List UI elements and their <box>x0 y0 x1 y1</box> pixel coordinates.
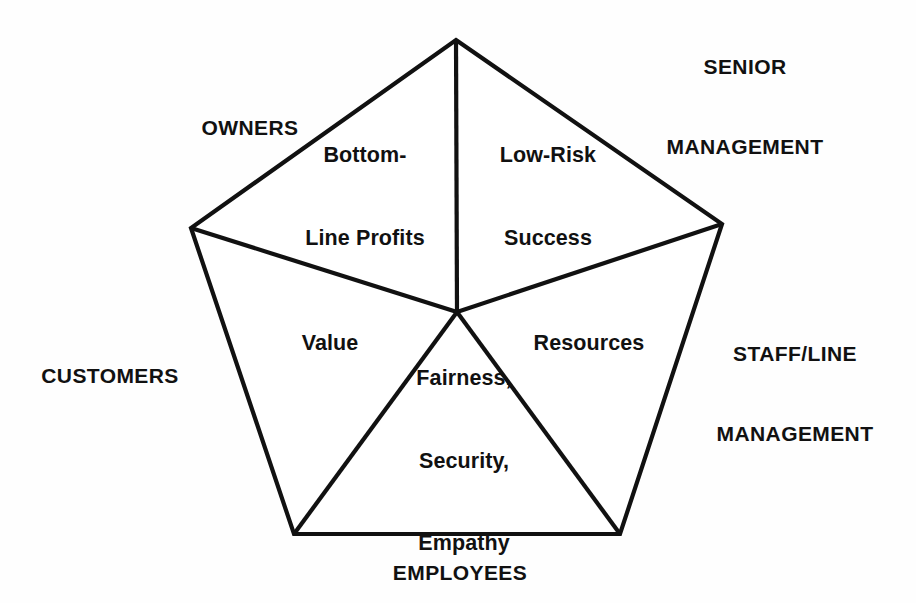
senior-management-line-2: MANAGEMENT <box>620 134 870 161</box>
staff-line-management-line-2: MANAGEMENT <box>670 421 916 448</box>
stakeholder-label-staff-line-management: STAFF/LINE MANAGEMENT <box>670 287 916 502</box>
stakeholder-label-senior-management: SENIOR MANAGEMENT <box>620 0 870 215</box>
low-risk-success-line-2: Success <box>463 225 633 253</box>
stakeholder-label-customers: CUSTOMERS <box>0 309 225 443</box>
low-risk-success-line-1: Low-Risk <box>463 142 633 170</box>
bottom-line-profits-line-1: Bottom- <box>265 142 465 170</box>
customers-text: CUSTOMERS <box>0 363 225 390</box>
senior-management-line-1: SENIOR <box>620 53 870 80</box>
diagram-canvas: OWNERS SENIOR MANAGEMENT STAFF/LINE MANA… <box>0 0 916 603</box>
sector-label-low-risk-success: Low-Risk Success <box>463 87 633 307</box>
staff-line-management-line-1: STAFF/LINE <box>670 340 916 367</box>
bottom-line-profits-line-2: Line Profits <box>265 225 465 253</box>
sector-label-fairness-security-empathy: Fairness, Security, Empathy <box>369 310 559 603</box>
fairness-line-3: Empathy <box>369 530 559 558</box>
sector-label-bottom-line-profits: Bottom- Line Profits <box>265 87 465 307</box>
fairness-line-2: Security, <box>369 447 559 475</box>
fairness-line-1: Fairness, <box>369 365 559 393</box>
